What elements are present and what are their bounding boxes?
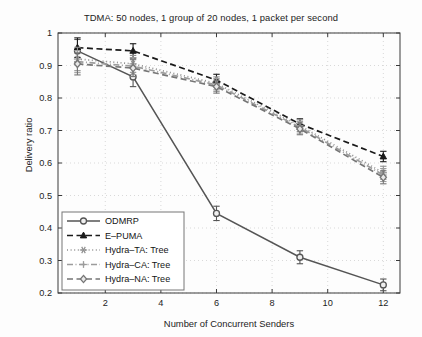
series-line (77, 59, 383, 173)
chart-legend[interactable]: ODMRPE–PUMAHydra–TA: TreeHydra–CA: TreeH… (62, 212, 184, 290)
series-line (77, 48, 383, 157)
chart-figure: TDMA: 50 nodes, 1 group of 20 nodes, 1 p… (0, 0, 422, 337)
svg-text:0.4: 0.4 (39, 223, 52, 233)
legend-label: Hydra–TA: Tree (105, 245, 169, 255)
legend-label: Hydra–CA: Tree (105, 260, 170, 270)
series-line (77, 62, 383, 175)
data-point-marker (380, 282, 386, 288)
svg-text:0.9: 0.9 (39, 61, 52, 71)
svg-text:8: 8 (270, 298, 275, 308)
series-e-puma (74, 38, 386, 162)
legend-label: Hydra–NA: Tree (105, 274, 170, 284)
series-line (77, 64, 383, 177)
svg-text:1: 1 (47, 28, 52, 38)
svg-text:0.6: 0.6 (39, 158, 52, 168)
svg-text:4: 4 (158, 298, 163, 308)
plot-canvas: 0.20.30.40.50.60.70.80.9124681012 ODMRPE… (0, 0, 422, 337)
legend-label: E–PUMA (105, 231, 143, 241)
svg-text:2: 2 (103, 298, 108, 308)
data-point-marker (81, 218, 87, 224)
svg-text:0.3: 0.3 (39, 256, 52, 266)
y-axis-label: Delivery ratio (23, 118, 34, 173)
data-point-marker (213, 83, 219, 90)
data-point-marker (213, 210, 219, 216)
svg-text:0.5: 0.5 (39, 191, 52, 201)
series-hydra-ca-tree (74, 51, 387, 182)
series-hydra-na-tree (74, 53, 386, 184)
svg-text:0.7: 0.7 (39, 126, 52, 136)
data-point-marker (297, 254, 303, 260)
x-axis-label: Number of Concurrent Senders (164, 318, 294, 329)
svg-text:0.8: 0.8 (39, 93, 52, 103)
svg-text:6: 6 (214, 298, 219, 308)
svg-text:10: 10 (323, 298, 333, 308)
legend-label: ODMRP (105, 216, 139, 226)
y-axis-label-wrap: Delivery ratio (18, 105, 36, 185)
svg-text:0.2: 0.2 (39, 288, 52, 298)
x-axis-label-wrap: Number of Concurrent Senders (58, 313, 400, 331)
svg-text:12: 12 (378, 298, 388, 308)
